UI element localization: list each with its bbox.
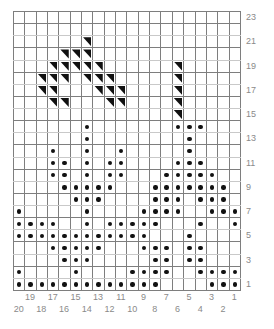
- chart-cell[interactable]: [150, 145, 161, 157]
- chart-cell[interactable]: [206, 109, 217, 121]
- chart-cell[interactable]: [82, 230, 93, 242]
- chart-cell[interactable]: [229, 109, 240, 121]
- chart-grid[interactable]: [13, 11, 241, 291]
- chart-cell[interactable]: [82, 96, 93, 108]
- chart-cell[interactable]: [161, 48, 172, 60]
- chart-cell[interactable]: [25, 145, 36, 157]
- chart-cell[interactable]: [206, 121, 217, 133]
- chart-cell[interactable]: [93, 48, 104, 60]
- chart-cell[interactable]: [70, 181, 81, 193]
- chart-cell[interactable]: [138, 96, 149, 108]
- chart-cell[interactable]: [218, 109, 229, 121]
- chart-cell[interactable]: [127, 266, 138, 278]
- chart-cell[interactable]: [82, 218, 93, 230]
- chart-cell[interactable]: [104, 206, 115, 218]
- chart-cell[interactable]: [206, 133, 217, 145]
- chart-cell[interactable]: [206, 266, 217, 278]
- chart-cell[interactable]: [116, 218, 127, 230]
- chart-cell[interactable]: [218, 278, 229, 290]
- chart-cell[interactable]: [184, 266, 195, 278]
- chart-cell[interactable]: [104, 109, 115, 121]
- chart-cell[interactable]: [48, 193, 59, 205]
- chart-cell[interactable]: [82, 12, 93, 24]
- chart-cell[interactable]: [93, 24, 104, 36]
- chart-cell[interactable]: [59, 206, 70, 218]
- chart-cell[interactable]: [161, 145, 172, 157]
- chart-cell[interactable]: [138, 60, 149, 72]
- chart-cell[interactable]: [184, 48, 195, 60]
- chart-cell[interactable]: [36, 145, 47, 157]
- chart-cell[interactable]: [172, 254, 183, 266]
- chart-cell[interactable]: [127, 193, 138, 205]
- chart-cell[interactable]: [82, 24, 93, 36]
- chart-cell[interactable]: [36, 254, 47, 266]
- chart-cell[interactable]: [172, 109, 183, 121]
- chart-cell[interactable]: [14, 24, 25, 36]
- chart-cell[interactable]: [82, 48, 93, 60]
- chart-cell[interactable]: [150, 278, 161, 290]
- chart-cell[interactable]: [48, 206, 59, 218]
- chart-cell[interactable]: [172, 121, 183, 133]
- chart-cell[interactable]: [184, 169, 195, 181]
- chart-cell[interactable]: [104, 145, 115, 157]
- chart-cell[interactable]: [161, 254, 172, 266]
- chart-cell[interactable]: [25, 157, 36, 169]
- chart-cell[interactable]: [104, 12, 115, 24]
- chart-cell[interactable]: [218, 84, 229, 96]
- chart-cell[interactable]: [172, 278, 183, 290]
- chart-cell[interactable]: [218, 60, 229, 72]
- chart-cell[interactable]: [150, 60, 161, 72]
- chart-cell[interactable]: [127, 242, 138, 254]
- chart-cell[interactable]: [25, 109, 36, 121]
- chart-cell[interactable]: [172, 181, 183, 193]
- chart-cell[interactable]: [25, 206, 36, 218]
- chart-cell[interactable]: [161, 24, 172, 36]
- chart-cell[interactable]: [116, 169, 127, 181]
- chart-cell[interactable]: [116, 24, 127, 36]
- chart-cell[interactable]: [161, 278, 172, 290]
- chart-cell[interactable]: [104, 169, 115, 181]
- chart-cell[interactable]: [93, 218, 104, 230]
- chart-cell[interactable]: [14, 278, 25, 290]
- chart-cell[interactable]: [48, 266, 59, 278]
- chart-cell[interactable]: [184, 157, 195, 169]
- chart-cell[interactable]: [82, 72, 93, 84]
- chart-cell[interactable]: [206, 218, 217, 230]
- chart-cell[interactable]: [116, 230, 127, 242]
- chart-cell[interactable]: [70, 109, 81, 121]
- chart-cell[interactable]: [36, 109, 47, 121]
- chart-cell[interactable]: [104, 278, 115, 290]
- chart-cell[interactable]: [138, 266, 149, 278]
- chart-cell[interactable]: [93, 181, 104, 193]
- chart-cell[interactable]: [59, 36, 70, 48]
- chart-cell[interactable]: [138, 109, 149, 121]
- chart-cell[interactable]: [14, 157, 25, 169]
- chart-cell[interactable]: [161, 193, 172, 205]
- chart-cell[interactable]: [70, 12, 81, 24]
- chart-cell[interactable]: [14, 145, 25, 157]
- chart-cell[interactable]: [59, 254, 70, 266]
- chart-cell[interactable]: [172, 193, 183, 205]
- chart-cell[interactable]: [82, 169, 93, 181]
- chart-cell[interactable]: [36, 48, 47, 60]
- chart-cell[interactable]: [206, 145, 217, 157]
- chart-cell[interactable]: [104, 36, 115, 48]
- chart-grid-table[interactable]: [13, 11, 241, 291]
- chart-cell[interactable]: [36, 96, 47, 108]
- chart-cell[interactable]: [206, 242, 217, 254]
- chart-cell[interactable]: [172, 72, 183, 84]
- chart-cell[interactable]: [138, 121, 149, 133]
- chart-cell[interactable]: [82, 254, 93, 266]
- chart-cell[interactable]: [127, 230, 138, 242]
- chart-cell[interactable]: [206, 169, 217, 181]
- chart-cell[interactable]: [138, 206, 149, 218]
- chart-cell[interactable]: [14, 218, 25, 230]
- chart-cell[interactable]: [59, 60, 70, 72]
- chart-cell[interactable]: [150, 254, 161, 266]
- chart-cell[interactable]: [127, 157, 138, 169]
- chart-cell[interactable]: [184, 12, 195, 24]
- chart-cell[interactable]: [93, 72, 104, 84]
- chart-cell[interactable]: [127, 84, 138, 96]
- chart-cell[interactable]: [172, 96, 183, 108]
- chart-cell[interactable]: [104, 84, 115, 96]
